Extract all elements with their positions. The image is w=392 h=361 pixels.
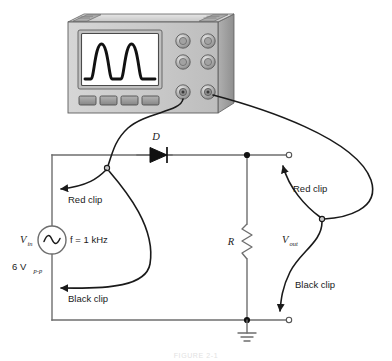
knob-ch2-vertical[interactable] [201,34,215,48]
knob-ch1-vertical[interactable] [176,34,190,48]
vin-label-sub: in [28,240,33,247]
scope-button-4[interactable] [142,96,159,105]
label-ch2-black-clip: Black clip [295,279,335,290]
oscilloscope[interactable] [68,14,234,113]
label-ch1-red-clip: Red clip [68,194,102,205]
diode-label: D [151,131,160,142]
amplitude-label-sub: p-p [33,267,43,274]
terminal-output-negative [286,317,291,322]
label-ch1-black-clip: Black clip [68,293,108,304]
terminal-output-positive [286,152,291,157]
vout-label-sub: out [290,240,299,247]
amplitude-label: 6 V [12,261,27,272]
connector-channel-2[interactable] [201,85,215,99]
resistor-label: R [227,236,235,247]
figure-caption: FIGURE 2-1 [174,352,219,359]
knob-timebase[interactable] [176,55,190,69]
connector-channel-1[interactable] [176,85,190,99]
scope-button-3[interactable] [121,96,138,105]
node-dot-output-top [244,152,250,158]
scope-button-1[interactable] [79,96,96,105]
scope-button-2[interactable] [100,96,117,105]
knob-trigger[interactable] [201,55,215,69]
label-ch2-red-clip: Red clip [293,183,327,194]
source-symbol [38,226,66,254]
figure-canvas: D V in f = 1 kHz 6 V p-p R V out [0,0,392,361]
frequency-label: f = 1 kHz [70,234,108,245]
